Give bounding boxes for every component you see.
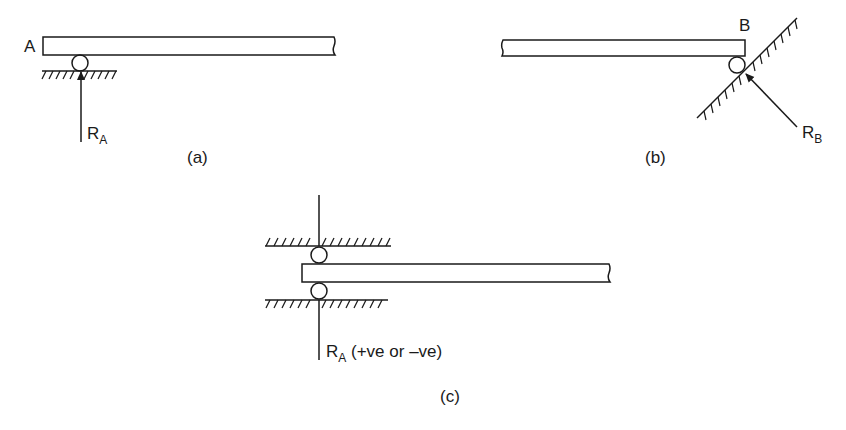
- end-label-a: A: [24, 37, 36, 56]
- beam-c: [302, 264, 610, 282]
- panel-a: A RA (a): [24, 37, 335, 167]
- reaction-label-a: RA: [87, 124, 107, 147]
- upper-ground-hatch-c: [265, 238, 391, 246]
- panel-b: B RB (b): [502, 16, 823, 167]
- caption-b: (b): [645, 148, 666, 167]
- reaction-label-b: RB: [802, 123, 822, 146]
- caption-c: (c): [440, 387, 460, 406]
- beam-b: [502, 40, 745, 56]
- beam-a: [43, 37, 335, 55]
- roller-a: [72, 55, 88, 71]
- reaction-label-c: RA (+ve or –ve): [326, 342, 442, 365]
- panel-c: RA (+ve or –ve) (c): [265, 195, 610, 406]
- reaction-arrow-b: [746, 74, 797, 127]
- lower-ground-hatch-c: [265, 300, 388, 308]
- roller-b: [729, 57, 745, 73]
- caption-a: (a): [187, 148, 208, 167]
- upper-roller-c: [311, 247, 327, 263]
- lower-roller-c: [311, 283, 327, 299]
- end-label-b: B: [739, 16, 750, 35]
- support-reactions-diagram: A RA (a) B RB (b): [0, 0, 846, 430]
- ground-hatch-a: [42, 71, 117, 79]
